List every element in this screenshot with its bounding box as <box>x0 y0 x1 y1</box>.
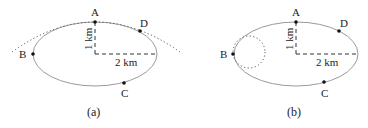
label-c: C <box>121 87 128 99</box>
point-d <box>138 29 142 33</box>
point-c <box>322 80 326 84</box>
panel-a: A B C D 1 km 2 km (a) <box>12 6 180 119</box>
label-c: C <box>321 87 328 99</box>
dotted-circle <box>233 36 265 68</box>
point-b <box>231 52 235 56</box>
point-c <box>122 81 126 85</box>
label-semi-major: 2 km <box>115 56 138 68</box>
dotted-parabola <box>12 22 180 52</box>
label-a: A <box>91 6 99 18</box>
point-d <box>337 29 341 33</box>
label-a: A <box>292 6 300 18</box>
label-b: B <box>220 48 227 60</box>
point-b <box>31 52 35 56</box>
panel-b: A B C D 1 km 2 km (b) <box>220 6 358 119</box>
label-b: B <box>19 48 26 60</box>
caption-a: (a) <box>87 105 100 119</box>
label-d: D <box>140 17 148 29</box>
label-semi-major: 2 km <box>316 56 339 68</box>
label-semi-minor: 1 km <box>82 27 94 50</box>
diagram-canvas: A B C D 1 km 2 km (a) A B C D 1 km 2 km … <box>0 0 368 128</box>
point-a <box>93 20 97 24</box>
label-d: D <box>340 17 348 29</box>
label-semi-minor: 1 km <box>283 27 295 50</box>
caption-b: (b) <box>287 105 301 119</box>
point-a <box>294 20 298 24</box>
